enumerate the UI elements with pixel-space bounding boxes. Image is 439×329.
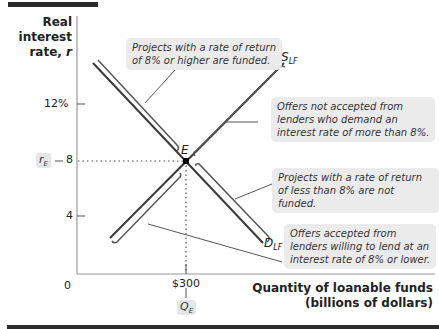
bottom-rule xyxy=(7,325,439,329)
r-equilibrium-label: rE xyxy=(36,153,51,168)
y-tick-12: 12% xyxy=(44,97,68,110)
note-not-funded: Projects with a rate of return of less t… xyxy=(272,168,439,213)
note-accepted: Offers accepted from lenders willing to … xyxy=(284,224,436,269)
supply-curve-label: SLF xyxy=(281,50,298,66)
x-tick-0: 0 xyxy=(64,279,71,292)
q-equilibrium-label: QE xyxy=(177,300,196,315)
note-funded: Projects with a rate of return of 8% or … xyxy=(126,38,282,70)
x-axis-label: Quantity of loanable funds (billions of … xyxy=(252,281,433,311)
note-not-accepted: Offers not accepted from lenders who dem… xyxy=(271,97,435,142)
equilibrium-point xyxy=(183,158,189,164)
demand-curve-label: DLF xyxy=(264,236,282,252)
y-tick-4: 4 xyxy=(66,209,73,222)
supply-curve xyxy=(110,63,285,243)
y-axis-label: Real interest rate, r xyxy=(2,15,72,60)
equilibrium-label: E xyxy=(181,143,189,157)
x-tick-300: $300 xyxy=(172,277,200,290)
y-tick-8: 8 xyxy=(66,153,73,166)
